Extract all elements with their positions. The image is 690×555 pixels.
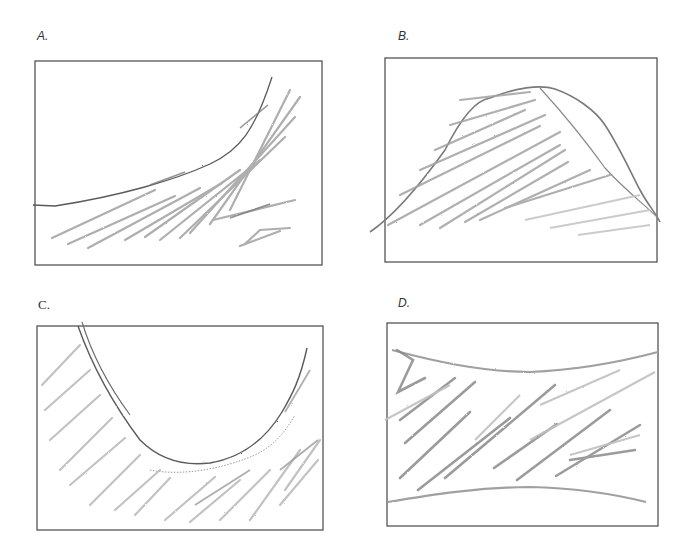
panel-d-lower-curve	[388, 487, 646, 502]
panel-d-hatching-light	[385, 370, 655, 455]
panel-d-sketch	[0, 0, 690, 555]
panel-d-upper-curve	[392, 350, 658, 372]
